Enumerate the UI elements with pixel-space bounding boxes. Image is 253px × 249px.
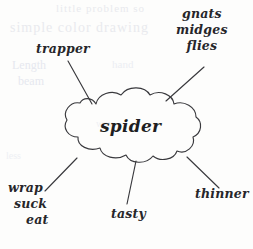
branch-label-wrap-line-1: wrap: [8, 180, 48, 196]
branch-label-thinner: thinner: [195, 186, 249, 201]
branch-label-thinner-line-1: thinner: [195, 186, 249, 201]
center-node-label: spider: [100, 116, 161, 136]
branch-label-wrap-line-2: suck: [8, 196, 48, 212]
branch-label-gnats-line-1: gnats: [176, 6, 228, 22]
connector-wrap: [45, 158, 77, 191]
branch-label-wrap: wrap suck eat: [8, 180, 48, 228]
branch-label-tasty-line-1: tasty: [111, 206, 146, 221]
branch-label-gnats-line-2: midges: [176, 22, 228, 38]
connector-thinner: [187, 157, 219, 188]
branch-label-trapper: trapper: [36, 41, 90, 56]
connector-gnats: [166, 67, 204, 101]
branch-label-wrap-line-3: eat: [8, 212, 48, 228]
connector-trapper: [68, 61, 92, 104]
branch-label-gnats: gnats midges flies: [176, 6, 228, 54]
mind-map-canvas: little problem so simple color drawing L…: [0, 0, 253, 249]
branch-label-trapper-line-1: trapper: [36, 41, 90, 56]
connector-tasty: [127, 161, 136, 204]
branch-label-tasty: tasty: [111, 206, 146, 221]
branch-label-gnats-line-3: flies: [176, 38, 228, 54]
